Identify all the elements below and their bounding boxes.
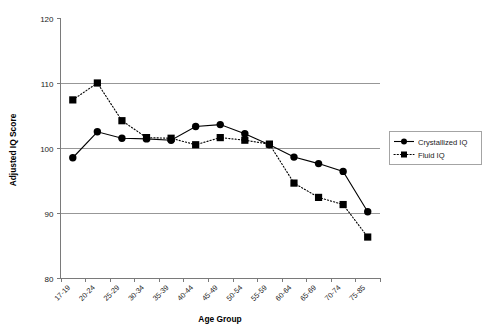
y-axis-title: Adjusted IQ Score: [8, 113, 18, 186]
legend-label-crystallized: Crystallized IQ: [418, 138, 467, 147]
data-point-crystallized-iq-75-85: [364, 208, 371, 215]
data-point-crystallized-iq-17-19: [69, 154, 76, 161]
legend-label-fluid: Fluid IQ: [418, 151, 445, 160]
data-point-crystallized-iq-50-54: [241, 130, 248, 137]
data-point-crystallized-iq-60-64: [290, 153, 297, 160]
data-point-fluid-iq-50-54: [241, 137, 248, 144]
legend-marker-circle: [401, 139, 407, 145]
data-point-fluid-iq-75-85: [364, 233, 371, 240]
chart-container: 8090100110120 17-1920-2425-2930-3435-394…: [0, 0, 487, 330]
data-point-fluid-iq-70-74: [340, 201, 347, 208]
data-point-fluid-iq-40-44: [192, 141, 199, 148]
legend-box: [390, 132, 482, 165]
x-axis-title: Age Group: [198, 314, 241, 324]
data-point-crystallized-iq-25-29: [118, 135, 125, 142]
data-point-fluid-iq-45-49: [217, 134, 224, 141]
data-point-fluid-iq-25-29: [118, 117, 125, 124]
chart-background: [0, 0, 487, 330]
y-tick-label-100: 100: [40, 145, 54, 154]
iq-by-age-line-chart: 8090100110120 17-1920-2425-2930-3435-394…: [0, 0, 487, 330]
data-point-fluid-iq-60-64: [290, 180, 297, 187]
data-point-fluid-iq-55-59: [266, 141, 273, 148]
data-point-crystallized-iq-45-49: [217, 121, 224, 128]
data-point-crystallized-iq-40-44: [192, 123, 199, 130]
legend: Crystallized IQ Fluid IQ: [390, 132, 482, 165]
data-point-crystallized-iq-70-74: [339, 168, 346, 175]
y-tick-label-80: 80: [45, 275, 54, 284]
y-tick-label-120: 120: [40, 15, 54, 24]
legend-marker-square: [401, 152, 407, 158]
y-tick-label-90: 90: [45, 210, 54, 219]
data-point-fluid-iq-30-34: [143, 134, 150, 141]
data-point-crystallized-iq-20-24: [94, 128, 101, 135]
data-point-fluid-iq-35-39: [168, 135, 175, 142]
data-point-fluid-iq-65-69: [315, 194, 322, 201]
data-point-fluid-iq-20-24: [94, 79, 101, 86]
data-point-crystallized-iq-65-69: [315, 160, 322, 167]
data-point-fluid-iq-17-19: [69, 96, 76, 103]
y-tick-label-110: 110: [41, 80, 54, 89]
